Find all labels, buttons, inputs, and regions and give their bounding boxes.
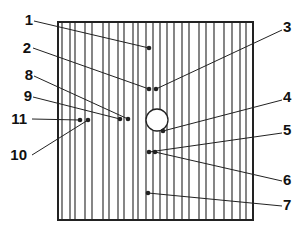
callout-label: 2 <box>23 39 31 56</box>
callout-dot <box>147 46 152 51</box>
callout-dot <box>154 87 159 92</box>
callout-label: 11 <box>11 110 27 127</box>
callout-dot <box>126 117 131 122</box>
leader-line <box>148 193 282 206</box>
leader-line <box>32 120 88 155</box>
callout-label: 3 <box>283 18 291 35</box>
callout-dot <box>78 118 83 123</box>
callout-dot <box>146 191 151 196</box>
callout-dot <box>118 117 123 122</box>
callout-dot <box>161 129 166 134</box>
callout-dot <box>147 150 152 155</box>
callout-4: 4 <box>161 88 292 133</box>
callout-5: 5 <box>147 121 292 154</box>
callout-1: 1 <box>25 11 152 50</box>
callout-dot <box>153 150 158 155</box>
leader-line <box>32 119 80 120</box>
callout-dot <box>86 118 91 123</box>
leader-line <box>34 76 128 119</box>
leader-line <box>163 100 282 131</box>
callout-2: 2 <box>23 39 152 91</box>
callout-label: 10 <box>10 146 27 163</box>
center-hole <box>146 109 168 131</box>
leader-line <box>33 48 149 89</box>
callout-label: 4 <box>283 88 292 105</box>
callout-11: 11 <box>11 110 82 127</box>
leader-line <box>33 97 120 119</box>
callout-label: 1 <box>25 11 33 28</box>
callout-label: 9 <box>24 87 32 104</box>
leader-line <box>149 133 282 152</box>
callout-label: 7 <box>283 196 291 213</box>
callout-label: 5 <box>283 121 291 138</box>
callout-8: 8 <box>25 66 131 121</box>
panel-diagram: 1234567891011 <box>0 0 306 234</box>
callout-9: 9 <box>24 87 123 121</box>
leader-line <box>156 30 282 89</box>
callout-label: 6 <box>283 171 291 188</box>
callout-label: 8 <box>25 66 33 83</box>
callout-dot <box>147 87 152 92</box>
